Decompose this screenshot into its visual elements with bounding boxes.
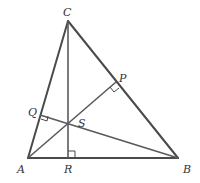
label-p: P [118, 72, 127, 85]
label-r: R [63, 163, 72, 176]
triangle-diagram: C A R B P Q S [0, 0, 200, 183]
label-s: S [78, 117, 86, 130]
label-b: B [182, 163, 191, 176]
right-angle-mark-p [110, 87, 119, 92]
label-a: A [16, 163, 25, 176]
label-q: Q [28, 106, 37, 119]
side-ca [28, 21, 68, 158]
altitude-ap [28, 82, 116, 158]
label-c: C [63, 6, 72, 19]
altitude-bq [40, 115, 178, 158]
right-angle-mark-r [68, 151, 75, 158]
side-bc [68, 21, 178, 158]
